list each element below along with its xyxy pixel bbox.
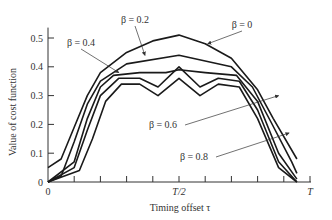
- y-tick-label: 0.1: [31, 148, 44, 159]
- curve-label: β = 0.2: [121, 14, 149, 25]
- annotation-arrow: [81, 49, 119, 73]
- axes: 00.10.20.30.40.50T/2T: [31, 28, 315, 197]
- annotation-arrow: [135, 26, 145, 55]
- x-tick-label: T: [307, 186, 314, 197]
- curve-label: β = 0.4: [67, 37, 95, 48]
- y-tick-label: 0.4: [31, 61, 44, 72]
- x-tick-label: T/2: [172, 186, 185, 197]
- y-tick-label: 0.2: [31, 119, 44, 130]
- y-tick-label: 0.3: [31, 90, 44, 101]
- y-tick-label: 0: [38, 177, 43, 188]
- y-axis-title: Value of cost function: [7, 68, 18, 156]
- x-tick-label: 0: [46, 186, 51, 197]
- curves: [48, 35, 297, 182]
- x-axis-title: Timing offset τ: [150, 202, 211, 213]
- y-tick-label: 0.5: [31, 33, 44, 44]
- curve-label: β = 0: [232, 19, 253, 30]
- curve-label: β = 0.6: [149, 119, 177, 130]
- cost-function-chart: 00.10.20.30.40.50T/2T β = 0β = 0.2β = 0.…: [0, 0, 332, 220]
- curve-label: β = 0.8: [180, 151, 208, 162]
- annotation-arrow: [208, 31, 242, 44]
